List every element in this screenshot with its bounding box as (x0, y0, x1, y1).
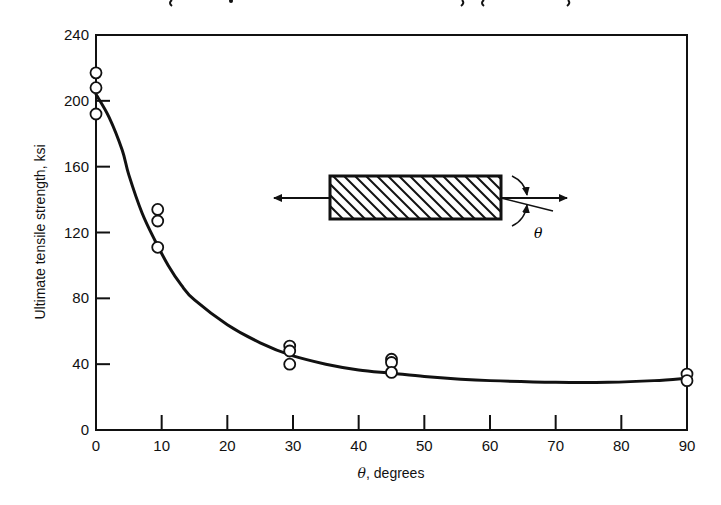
x-axis-title-text: , degrees (366, 465, 424, 481)
x-axis-title: θ, degrees (358, 465, 425, 481)
angle-label: θ (534, 225, 543, 241)
y-tick-label: 160 (64, 158, 89, 175)
x-tick-label: 90 (679, 437, 696, 454)
inset-specimen-diagram: θ (274, 176, 576, 241)
fiber-direction-line (501, 198, 553, 211)
data-point-marker (284, 359, 295, 370)
x-tick-label: 40 (350, 437, 367, 454)
y-tick-label: 80 (72, 289, 89, 306)
data-point-marker (152, 215, 163, 226)
y-tick-label: 240 (64, 26, 89, 43)
x-tick-label: 30 (285, 437, 302, 454)
data-point-marker (284, 346, 295, 357)
x-axis-ticks: 0102030405060708090 (92, 415, 696, 454)
x-tick-label: 80 (613, 437, 630, 454)
x-tick-label: 20 (219, 437, 236, 454)
data-point-marker (386, 367, 397, 378)
data-point-marker (91, 109, 102, 120)
x-tick-label: 0 (92, 437, 100, 454)
fitted-curve (96, 94, 687, 382)
angle-arrow-bottom (512, 205, 527, 226)
data-point-marker (91, 82, 102, 93)
x-tick-label: 10 (153, 437, 170, 454)
y-axis-title: Ultimate tensile strength, ksi (32, 144, 48, 319)
y-tick-label: 200 (64, 92, 89, 109)
y-tick-label: 120 (64, 224, 89, 241)
x-tick-label: 70 (547, 437, 564, 454)
data-points (91, 67, 693, 386)
clipped-caption-fragment (170, 0, 569, 6)
chart: 0102030405060708090 04080120160200240 θ,… (0, 0, 721, 505)
y-axis-ticks: 04080120160200240 (64, 26, 110, 438)
y-tick-label: 0 (81, 421, 89, 438)
data-point-marker (152, 242, 163, 253)
x-tick-label: 50 (416, 437, 433, 454)
y-tick-label: 40 (72, 355, 89, 372)
data-point-marker (152, 204, 163, 215)
data-point-marker (682, 375, 693, 386)
data-point-marker (91, 67, 102, 78)
x-tick-label: 60 (482, 437, 499, 454)
angle-arrow-top (512, 176, 527, 195)
